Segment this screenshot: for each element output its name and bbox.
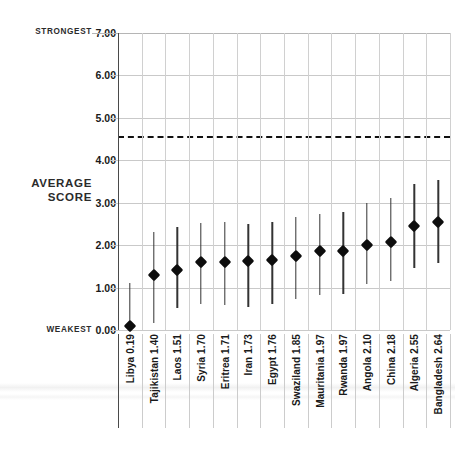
data-point-group xyxy=(355,33,379,330)
data-point-group xyxy=(213,33,237,330)
data-point-group xyxy=(284,33,308,330)
x-axis-category-label: Eritrea 1.71 xyxy=(219,334,230,389)
data-marker-diamond xyxy=(337,245,350,258)
chart-container: STRONGEST AVERAGESCORE WEAKEST 0.001.002… xyxy=(0,0,455,468)
x-axis-tick-line xyxy=(260,334,261,428)
gridline-vertical xyxy=(450,33,451,330)
x-axis-category-label: Algeria 2.55 xyxy=(409,334,420,391)
data-point-group xyxy=(260,33,284,330)
x-axis-tick-line xyxy=(118,334,119,428)
x-axis-category-label: Laos 1.51 xyxy=(172,334,183,380)
x-axis-tick-line xyxy=(355,334,356,428)
data-marker-diamond xyxy=(384,236,397,249)
x-axis-category-label: Syria 1.70 xyxy=(196,334,207,382)
x-axis-category-labels: Libya 0.19Tajikistan 1.40Laos 1.51Syria … xyxy=(118,334,450,464)
data-marker-diamond xyxy=(361,239,374,252)
x-axis-tick-line xyxy=(308,334,309,428)
gridline-horizontal xyxy=(110,330,450,331)
x-axis-tick-line xyxy=(165,334,166,428)
x-axis-tick-line xyxy=(331,334,332,428)
data-marker-diamond xyxy=(218,256,231,269)
x-axis-category-label: China 2.18 xyxy=(385,334,396,385)
x-axis-category-label: Libya 0.19 xyxy=(124,334,135,383)
x-axis-category-label: Mauritania 1.97 xyxy=(314,334,325,408)
data-marker-diamond xyxy=(289,250,302,263)
data-point-group xyxy=(165,33,189,330)
axis-annotation-strongest: STRONGEST xyxy=(0,27,92,36)
data-point-group xyxy=(379,33,403,330)
data-marker-diamond xyxy=(171,264,184,277)
x-axis-tick-line xyxy=(379,334,380,428)
data-marker-diamond xyxy=(147,269,160,282)
axis-annotation-weakest: WEAKEST xyxy=(0,325,92,334)
data-point-group xyxy=(118,33,142,330)
data-marker-diamond xyxy=(432,216,445,229)
data-point-group xyxy=(142,33,166,330)
axis-title-average-score: AVERAGESCORE xyxy=(0,176,92,204)
x-axis-tick-line xyxy=(189,334,190,428)
x-axis-category-label: Iran 1.73 xyxy=(243,334,254,375)
data-point-group xyxy=(237,33,261,330)
data-point-group xyxy=(308,33,332,330)
data-marker-diamond xyxy=(408,220,421,233)
x-axis-tick-line xyxy=(284,334,285,428)
x-axis-category-label: Tajikistan 1.40 xyxy=(148,334,159,403)
y-axis-tick-labels: 0.001.002.003.004.005.006.007.00 xyxy=(88,0,116,468)
x-axis-category-label: Bangladesh 2.64 xyxy=(433,334,444,414)
x-axis-tick-line xyxy=(213,334,214,428)
data-point-group xyxy=(189,33,213,330)
data-point-group xyxy=(331,33,355,330)
data-marker-diamond xyxy=(242,255,255,268)
data-point-group xyxy=(426,33,450,330)
plot-area xyxy=(118,33,450,330)
data-marker-diamond xyxy=(313,245,326,258)
x-axis-category-label: Angola 2.10 xyxy=(362,334,373,391)
axis-annotation-column: STRONGEST AVERAGESCORE WEAKEST xyxy=(0,0,92,468)
x-axis-category-label: Rwanda 1.97 xyxy=(338,334,349,396)
x-axis-category-label: Egypt 1.76 xyxy=(267,334,278,385)
x-axis-tick-line xyxy=(403,334,404,428)
x-axis-tick-line xyxy=(237,334,238,428)
data-marker-diamond xyxy=(195,256,208,269)
x-axis-tick-line xyxy=(426,334,427,428)
x-axis-category-label: Swaziland 1.85 xyxy=(290,334,301,406)
data-marker-diamond xyxy=(266,253,279,266)
data-point-group xyxy=(403,33,427,330)
x-axis-tick-line xyxy=(450,334,451,428)
x-axis-tick-line xyxy=(142,334,143,428)
